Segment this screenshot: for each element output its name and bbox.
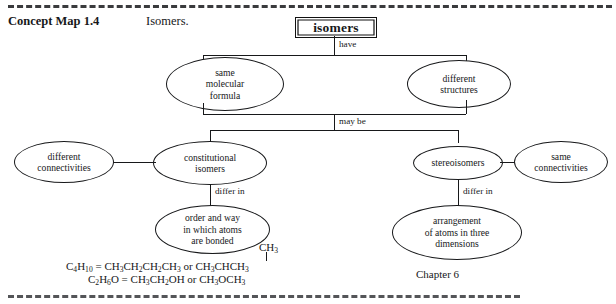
- connector-differ-in-left-stem: [210, 185, 211, 207]
- example-1-conjunction: or: [183, 260, 192, 272]
- link-label-may-be: may be: [337, 116, 368, 126]
- node-same-molecular-formula-label: samemolecularformula: [202, 67, 248, 101]
- node-different-connectivities-label: differentconnectivities: [33, 151, 94, 174]
- top-dashed-rule: [8, 5, 612, 8]
- example-2-conjunction: or: [187, 273, 196, 285]
- example-2-structure-b: CH3OCH3: [199, 273, 245, 285]
- node-different-structures-label: differentstructures: [436, 73, 481, 96]
- root-node-isomers: isomers: [295, 17, 377, 38]
- node-constitutional-isomers-label: constitutionalisomers: [180, 152, 240, 175]
- example-1-formula: C4H10: [66, 260, 93, 272]
- example-1-equals: =: [95, 260, 101, 272]
- bracket-maybe-split-bar: [210, 130, 458, 131]
- node-different-structures: differentstructures: [407, 60, 511, 108]
- branch-group-ch3: CH3: [259, 241, 278, 255]
- example-1-structure-b: CH3CHCH3: [195, 260, 248, 272]
- node-different-connectivities: differentconnectivities: [14, 141, 114, 183]
- link-label-differ-in-left: differ in: [213, 186, 247, 196]
- concept-map-title: Isomers.: [146, 14, 189, 28]
- bracket-maybe-right-drop: [458, 130, 459, 143]
- node-stereoisomers-label: stereoisomers: [428, 157, 489, 168]
- node-constitutional-isomers: constitutionalisomers: [153, 141, 267, 185]
- node-same-connectivities: sameconnectivities: [514, 141, 608, 183]
- node-same-molecular-formula: samemolecularformula: [166, 57, 284, 111]
- bracket-have-top-bar: [203, 55, 466, 56]
- connector-root-stem: [334, 36, 335, 55]
- connector-differ-in-right-stem: [458, 180, 459, 207]
- node-stereoisomers: stereoisomers: [413, 146, 503, 180]
- concept-map-number: Concept Map 1.4: [8, 14, 99, 28]
- example-1-structure-a: CH3CH2CH2CH3: [104, 260, 180, 272]
- bottom-dashed-rule: [8, 295, 520, 298]
- link-label-differ-in-right: differ in: [461, 186, 495, 196]
- concept-map-page: Concept Map 1.4 Isomers. isomers have sa…: [0, 0, 616, 304]
- node-same-connectivities-label: sameconnectivities: [530, 151, 591, 174]
- node-arrangement-three-dimensions: arrangementof atoms in threedimensions: [392, 205, 522, 260]
- root-node-label: isomers: [313, 20, 359, 36]
- bracket-mayberise-right-drop: [466, 100, 467, 114]
- example-2-structure-a: CH3CH2OH: [131, 273, 185, 285]
- branch-group-ch3-label: CH3: [259, 241, 278, 253]
- example-2-equals: =: [122, 273, 128, 285]
- chapter-reference: Chapter 6: [416, 268, 459, 280]
- connector-different-connectivities: [112, 162, 156, 163]
- example-line-2: C2H6O = CH3CH2OH or CH3OCH3: [88, 273, 245, 290]
- node-arrangement-three-dimensions-label: arrangementof atoms in threedimensions: [421, 215, 494, 249]
- bracket-mayberise-left-drop: [203, 103, 204, 114]
- node-order-and-way-label: order and wayin which atomsare bonded: [179, 212, 246, 246]
- link-label-have: have: [337, 39, 358, 49]
- node-order-and-way: order and wayin which atomsare bonded: [155, 205, 270, 254]
- connector-maybe-stem: [334, 114, 335, 130]
- example-2-formula: C2H6O: [88, 273, 119, 285]
- branch-bond-line: [266, 252, 267, 261]
